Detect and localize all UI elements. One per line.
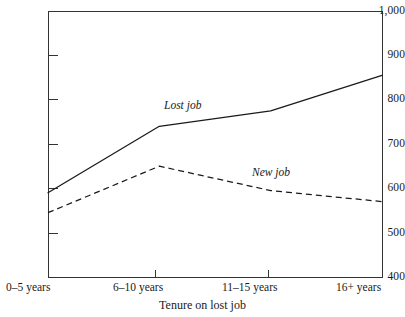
xtick-label-11-15-years: 11–15 years [222, 281, 277, 293]
series-label-new-job: New job [252, 166, 290, 178]
plot-frame [49, 12, 383, 278]
ytick-label-900: 900 [364, 49, 405, 61]
ytick-label-700: 700 [364, 138, 405, 150]
xtick-label-0-5-years: 0–5 years [6, 281, 50, 293]
series-label-lost-job: Lost job [164, 99, 201, 111]
ytick-label-500: 500 [364, 227, 405, 239]
ytick-label-600: 600 [364, 182, 405, 194]
xtick-label-6-10-years: 6–10 years [113, 281, 163, 293]
x-axis-title: Tenure on lost job [0, 299, 405, 312]
plot-canvas [0, 0, 405, 317]
ytick-label-800: 800 [364, 93, 405, 105]
xtick-label-16-plus-years: 16+ years [336, 281, 381, 293]
series-line-new-job [48, 166, 382, 213]
line-chart-figure: 1,000 900 800 700 600 500 400 0–5 years … [0, 0, 405, 317]
series-line-lost-job [48, 75, 382, 193]
ytick-label-1000: 1,000 [364, 5, 405, 17]
